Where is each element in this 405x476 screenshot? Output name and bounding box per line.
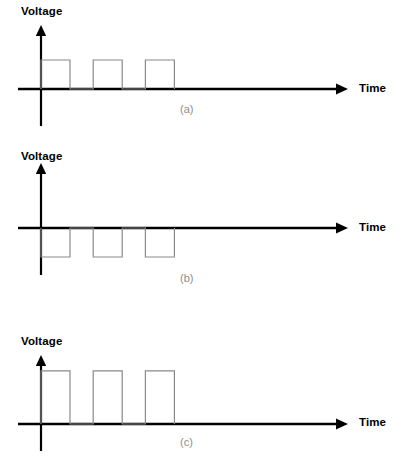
waveform-plot-b — [0, 140, 405, 300]
y-axis-arrowhead-a — [36, 25, 46, 36]
figure-caption-b: (b) — [180, 272, 193, 284]
waveform-trace-c — [41, 371, 174, 424]
waveform-figure-c: Voltage Time (c) — [0, 326, 405, 476]
x-axis-label-b: Time — [359, 221, 386, 233]
waveform-trace-b — [41, 228, 174, 257]
y-axis-arrowhead-c — [36, 355, 46, 366]
waveform-plot-c — [0, 326, 405, 476]
x-axis-label-c: Time — [359, 416, 386, 428]
waveform-figure-page: { "chart_data": [ { "type": "line", "id"… — [0, 0, 405, 476]
y-axis-label-a: Voltage — [21, 5, 62, 17]
figure-caption-a: (a) — [180, 103, 193, 115]
x-axis-arrowhead-c — [336, 419, 348, 430]
waveform-figure-a: Voltage Time (a) — [0, 0, 405, 132]
x-axis-arrowhead-a — [336, 84, 348, 95]
y-axis-label-c: Voltage — [21, 335, 62, 347]
y-axis-label-b: Voltage — [21, 150, 62, 162]
y-axis-arrowhead-b — [36, 163, 46, 174]
waveform-trace-a — [41, 60, 174, 89]
figure-caption-c: (c) — [180, 436, 193, 448]
waveform-plot-a — [0, 0, 405, 132]
waveform-figure-b: Voltage Time (b) — [0, 140, 405, 300]
x-axis-arrowhead-b — [336, 223, 348, 234]
x-axis-label-a: Time — [359, 82, 386, 94]
